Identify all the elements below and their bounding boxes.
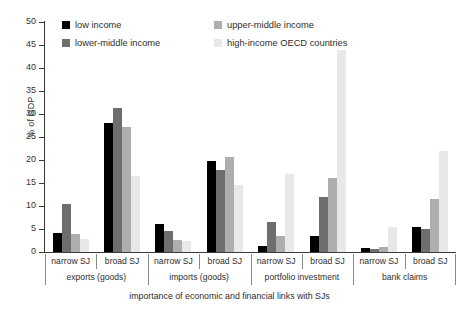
- bar[interactable]: [225, 157, 234, 252]
- bar-cluster: [361, 22, 397, 252]
- x-axis-subgroup-label: narrow SJ: [353, 256, 404, 266]
- y-axis-tick: [39, 229, 44, 230]
- bar-cluster: [258, 22, 294, 252]
- x-axis-subgroup-label: broad SJ: [96, 256, 147, 266]
- y-axis-tick-label: 40: [12, 63, 36, 72]
- y-axis-tick: [39, 137, 44, 138]
- bar[interactable]: [430, 199, 439, 252]
- y-axis-tick-label: 35: [12, 86, 36, 95]
- y-axis-tick: [39, 183, 44, 184]
- bar-cluster: [53, 22, 89, 252]
- bar[interactable]: [155, 224, 164, 252]
- bar-cluster: [155, 22, 191, 252]
- bar[interactable]: [164, 231, 173, 252]
- bar[interactable]: [361, 248, 370, 252]
- bar[interactable]: [267, 222, 276, 252]
- bar[interactable]: [131, 176, 140, 252]
- bar[interactable]: [113, 108, 122, 252]
- bar[interactable]: [173, 240, 182, 252]
- bar-cluster: [412, 22, 448, 252]
- bar[interactable]: [421, 229, 430, 252]
- bar[interactable]: [328, 178, 337, 252]
- y-axis-tick: [39, 68, 44, 69]
- bar[interactable]: [412, 227, 421, 252]
- bar[interactable]: [439, 151, 448, 252]
- x-axis-subgroup-label: narrow SJ: [148, 256, 199, 266]
- bar[interactable]: [80, 239, 89, 252]
- y-axis-tick-label: 25: [12, 132, 36, 141]
- bar[interactable]: [234, 185, 243, 252]
- category-separator: [405, 254, 406, 269]
- x-axis-subgroup-label: broad SJ: [405, 256, 456, 266]
- y-axis-tick: [39, 91, 44, 92]
- bar[interactable]: [122, 127, 131, 252]
- bar[interactable]: [104, 123, 113, 252]
- bar-cluster: [104, 22, 140, 252]
- bar[interactable]: [370, 249, 379, 252]
- x-axis-group-label: portfolio investment: [251, 272, 354, 282]
- bar[interactable]: [216, 170, 225, 252]
- y-axis-tick-label: 0: [12, 247, 36, 256]
- bar[interactable]: [337, 50, 346, 252]
- bar[interactable]: [71, 234, 80, 252]
- x-axis-group-label: bank claims: [353, 272, 456, 282]
- bar[interactable]: [310, 236, 319, 252]
- bar-cluster: [207, 22, 243, 252]
- bar[interactable]: [285, 174, 294, 252]
- y-axis-tick: [39, 114, 44, 115]
- x-axis-category-labels: narrow SJbroad SJexports (goods)narrow S…: [45, 253, 456, 289]
- y-axis-tick: [39, 45, 44, 46]
- bar[interactable]: [379, 247, 388, 252]
- bar[interactable]: [388, 227, 397, 252]
- bar[interactable]: [276, 236, 285, 252]
- bar[interactable]: [53, 233, 62, 252]
- x-axis-title: importance of economic and financial lin…: [0, 291, 459, 301]
- x-axis-subgroup-label: narrow SJ: [45, 256, 96, 266]
- y-axis-tick-label: 15: [12, 178, 36, 187]
- x-axis-subgroup-label: broad SJ: [302, 256, 353, 266]
- y-axis-tick-label: 50: [12, 17, 36, 26]
- x-axis-subgroup-label: narrow SJ: [251, 256, 302, 266]
- x-axis-group-label: imports (goods): [148, 272, 251, 282]
- bar[interactable]: [182, 241, 191, 253]
- y-axis-tick: [39, 252, 44, 253]
- y-axis-tick-label: 20: [12, 155, 36, 164]
- x-axis-group-label: exports (goods): [45, 272, 148, 282]
- bar[interactable]: [258, 246, 267, 252]
- bar[interactable]: [319, 197, 328, 252]
- x-axis-subgroup-label: broad SJ: [199, 256, 250, 266]
- y-axis-tick-label: 30: [12, 109, 36, 118]
- y-axis-tick: [39, 160, 44, 161]
- category-separator: [96, 254, 97, 269]
- y-axis-tick-label: 10: [12, 201, 36, 210]
- y-axis-tick-label: 5: [12, 224, 36, 233]
- category-separator: [199, 254, 200, 269]
- category-separator: [302, 254, 303, 269]
- bar[interactable]: [62, 204, 71, 252]
- y-axis-tick: [39, 206, 44, 207]
- y-axis-tick-label: 45: [12, 40, 36, 49]
- bar-cluster: [310, 22, 346, 252]
- y-axis-tick: [39, 22, 44, 23]
- bar[interactable]: [207, 161, 216, 252]
- bar-chart-figure: % of GDP 05101520253035404550 low income…: [0, 0, 459, 309]
- plot-area: [45, 22, 456, 252]
